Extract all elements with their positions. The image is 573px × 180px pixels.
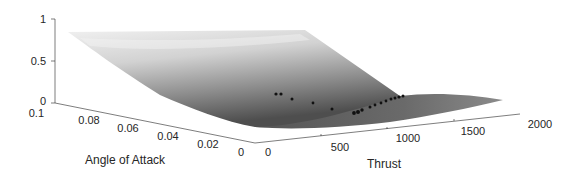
x-tick-2000: 2000 <box>528 118 552 130</box>
y-tick-0.02: 0.02 <box>197 138 218 150</box>
z-tick-0.5: 0.5 <box>31 55 46 67</box>
x-axis-label: Thrust <box>367 157 402 171</box>
y-axis-label: Angle of Attack <box>85 153 166 167</box>
y-tick-0.1: 0.1 <box>29 107 44 119</box>
y-tick-0.06: 0.06 <box>117 122 138 134</box>
surface-plot: 1 0.5 0 0.1 0.08 0.06 0.04 0.02 0 Angle … <box>0 0 573 180</box>
z-tick-1: 1 <box>40 13 46 25</box>
y-tick-0.04: 0.04 <box>157 130 178 142</box>
z-tick-0: 0 <box>40 95 46 107</box>
x-tick-1500: 1500 <box>461 125 485 137</box>
x-tick-500: 500 <box>331 141 349 153</box>
y-tick-0: 0 <box>238 146 244 158</box>
y-tick-0.08: 0.08 <box>78 114 99 126</box>
z-axis: 1 0.5 0 <box>31 13 55 107</box>
x-tick-1000: 1000 <box>396 132 420 144</box>
x-tick-0: 0 <box>265 146 271 158</box>
